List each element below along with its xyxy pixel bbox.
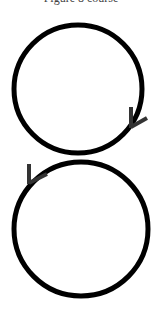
figure-eight-diagram (0, 0, 162, 315)
arrow-lower-icon (29, 164, 47, 184)
upper-loop (14, 25, 142, 153)
